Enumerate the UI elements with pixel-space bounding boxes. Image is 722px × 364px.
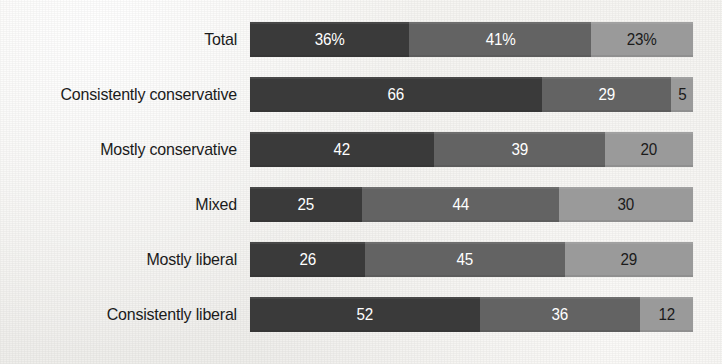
stacked-bar: 36%41%23% (250, 22, 693, 57)
bar-segment: 45 (365, 242, 564, 277)
bar-segment-value: 12 (658, 306, 675, 324)
chart-row: Mostly conservative423920 (0, 132, 722, 167)
bar-segment-value: 29 (620, 251, 637, 269)
row-label: Mixed (14, 187, 237, 222)
chart-row: Consistently conservative66295 (0, 77, 722, 112)
chart-row: Mostly liberal264529 (0, 242, 722, 277)
row-label: Mostly conservative (14, 132, 237, 167)
bar-segment: 30 (559, 187, 693, 222)
bar-segment-value: 36 (552, 306, 569, 324)
bar-segment: 44 (362, 187, 559, 222)
stacked-bar: 423920 (250, 132, 693, 167)
bar-segment-value: 26 (299, 251, 316, 269)
stacked-bar-chart: Total36%41%23%Consistently conservative6… (0, 0, 722, 364)
bar-segment-value: 29 (598, 86, 615, 104)
bar-segment-value: 66 (388, 86, 405, 104)
bar-segment: 12 (640, 297, 693, 332)
bar-segment-value: 20 (641, 141, 658, 159)
bar-segment: 5 (671, 77, 693, 112)
bar-segment: 39 (434, 132, 605, 167)
bar-segment: 20 (605, 132, 693, 167)
bar-segment: 29 (565, 242, 693, 277)
bar-segment-value: 45 (457, 251, 474, 269)
chart-row: Consistently liberal523612 (0, 297, 722, 332)
chart-row: Total36%41%23% (0, 22, 722, 57)
bar-segment: 41% (409, 22, 591, 57)
bar-segment-value: 39 (511, 141, 528, 159)
bar-segment-value: 23% (627, 31, 657, 49)
bar-segment: 36% (250, 22, 409, 57)
bar-segment-value: 52 (357, 306, 374, 324)
stacked-bar: 523612 (250, 297, 693, 332)
bar-segment-value: 25 (298, 196, 315, 214)
bar-segment-value: 36% (315, 31, 345, 49)
bar-segment: 26 (250, 242, 365, 277)
bar-segment: 25 (250, 187, 362, 222)
row-label: Mostly liberal (14, 242, 237, 277)
stacked-bar: 66295 (250, 77, 693, 112)
bar-segment: 42 (250, 132, 434, 167)
bar-segment: 29 (542, 77, 670, 112)
row-label: Consistently liberal (14, 297, 237, 332)
stacked-bar: 254430 (250, 187, 693, 222)
bar-segment-value: 41% (485, 31, 515, 49)
bar-segment-value: 42 (334, 141, 351, 159)
row-label: Consistently conservative (14, 77, 237, 112)
row-label: Total (14, 22, 237, 57)
bar-segment: 66 (250, 77, 542, 112)
bar-segment: 23% (591, 22, 693, 57)
chart-row: Mixed254430 (0, 187, 722, 222)
bar-segment: 36 (480, 297, 639, 332)
bar-segment-value: 5 (678, 86, 686, 104)
bar-segment-value: 44 (452, 196, 469, 214)
stacked-bar: 264529 (250, 242, 693, 277)
bar-segment-value: 30 (618, 196, 635, 214)
bar-segment: 52 (250, 297, 480, 332)
